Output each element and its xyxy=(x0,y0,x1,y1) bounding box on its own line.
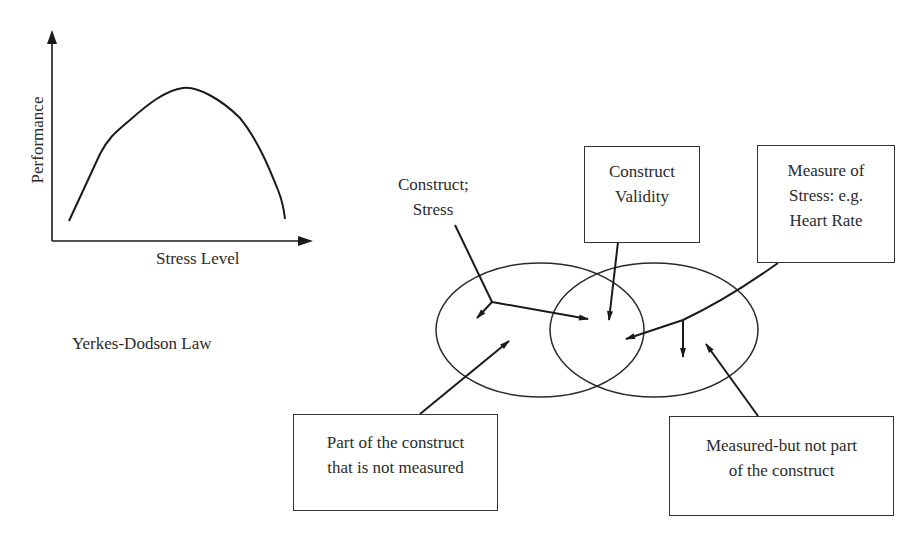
measure-line3: Heart Rate xyxy=(789,208,862,233)
measure-line1: Measure of xyxy=(788,158,865,183)
construct-label-line1: Construct; xyxy=(398,172,468,197)
construct-validity-box: Construct Validity xyxy=(584,146,700,243)
x-axis-label: Stress Level xyxy=(156,246,240,271)
validity-line1: Construct xyxy=(609,159,675,184)
unmeasured-part-box: Part of the construct that is not measur… xyxy=(293,414,498,511)
unmeasured-arrow xyxy=(420,341,509,414)
measure-of-stress-box: Measure of Stress: e.g. Heart Rate xyxy=(757,145,895,263)
construct-arrows xyxy=(455,225,588,319)
validity-line2: Validity xyxy=(615,184,669,209)
y-axis-label: Performance xyxy=(28,95,48,185)
extraneous-line1: Measured-but not part xyxy=(706,433,857,458)
extraneous-line2: of the construct xyxy=(729,458,835,483)
extraneous-measure-box: Measured-but not part of the construct xyxy=(669,416,894,516)
measure-line2: Stress: e.g. xyxy=(789,183,863,208)
measure-arrows xyxy=(626,263,778,357)
unmeasured-line2: that is not measured xyxy=(327,455,463,480)
chart-caption: Yerkes-Dodson Law xyxy=(72,331,211,356)
x-axis xyxy=(52,236,313,246)
construct-label: Construct; Stress xyxy=(398,172,468,222)
unmeasured-line1: Part of the construct xyxy=(327,430,464,455)
construct-label-line2: Stress xyxy=(398,197,468,222)
y-axis xyxy=(47,30,57,241)
performance-curve xyxy=(69,88,285,221)
